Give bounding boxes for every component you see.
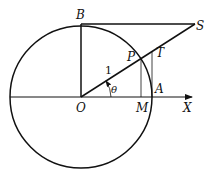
label-x: X (182, 101, 192, 115)
label-o: O (76, 101, 86, 115)
unit-circle-diagram: B S P T O M A X 1 θ (0, 0, 211, 177)
label-radius: 1 (105, 64, 112, 77)
label-p: P (126, 50, 136, 64)
label-b: B (75, 8, 85, 22)
label-s: S (196, 19, 204, 33)
segment-os (81, 24, 195, 97)
label-t: T (156, 46, 165, 60)
label-a: A (154, 82, 164, 96)
label-m: M (135, 101, 149, 115)
label-theta: θ (111, 84, 117, 95)
